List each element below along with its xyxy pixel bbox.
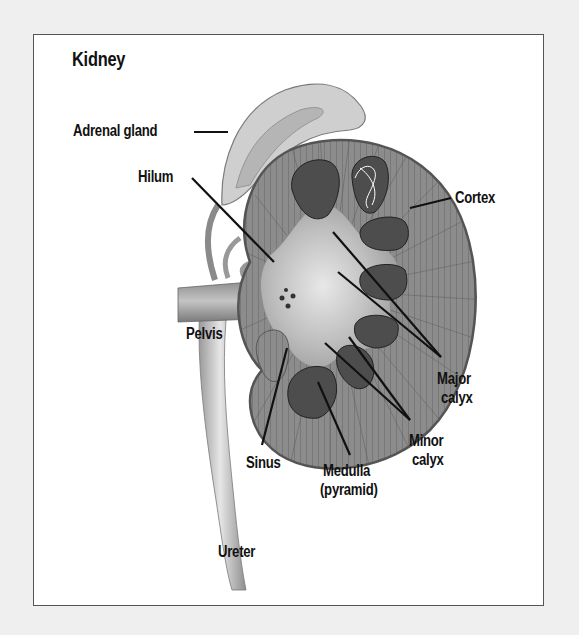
kidney-illustration [0,0,579,635]
label-hilum: Hilum [138,168,173,186]
label-adrenal-gland: Adrenal gland [73,122,157,140]
label-medulla-line2: (pyramid) [320,481,378,499]
label-minor-calyx-line2: calyx [412,451,444,469]
label-ureter: Ureter [218,543,255,561]
label-major-calyx-line1: Major [437,370,471,388]
label-sinus: Sinus [246,454,281,472]
label-minor-calyx-line1: Minor [409,432,443,450]
diagram-title: Kidney [72,48,125,70]
label-cortex: Cortex [455,189,495,207]
label-medulla-line1: Medulla [323,462,370,480]
label-major-calyx-line2: calyx [441,389,473,407]
label-pelvis: Pelvis [186,325,222,343]
